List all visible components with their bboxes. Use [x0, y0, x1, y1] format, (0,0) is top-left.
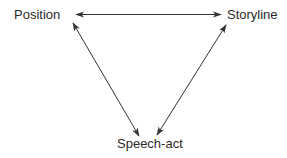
node-storyline: Storyline	[227, 8, 278, 21]
edge-position-speech-act	[73, 23, 139, 136]
triangle-diagram: Position Storyline Speech-act	[0, 0, 287, 158]
edges-layer	[0, 0, 287, 158]
node-position: Position	[14, 8, 60, 21]
node-speech-act: Speech-act	[117, 137, 183, 150]
edge-storyline-speech-act	[157, 25, 226, 135]
